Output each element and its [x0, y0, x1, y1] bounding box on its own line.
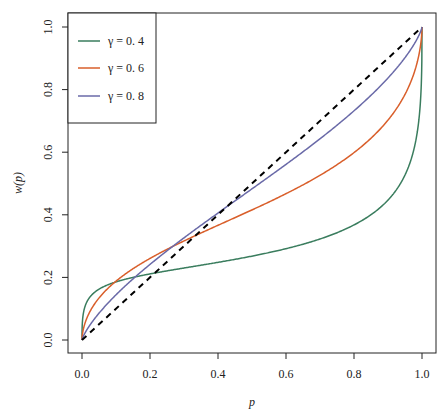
x-tick-label: 0.6: [279, 367, 294, 381]
y-tick-label: 0.2: [41, 270, 55, 285]
x-tick-label: 0.0: [75, 367, 90, 381]
y-tick-label: 0.8: [41, 82, 55, 97]
legend-label-gamma-06: γ = 0. 6: [107, 61, 144, 75]
y-axis-title: w(p): [11, 172, 25, 194]
y-tick-label: 1.0: [41, 20, 55, 35]
legend-label-gamma-08: γ = 0. 8: [107, 89, 144, 103]
x-tick-label: 1.0: [415, 367, 430, 381]
y-axis: 0.00.20.40.60.81.0: [41, 20, 68, 348]
x-axis-title: p: [248, 395, 255, 409]
legend-label-gamma-04: γ = 0. 4: [107, 34, 144, 48]
x-tick-label: 0.8: [347, 367, 362, 381]
x-axis: 0.00.20.40.60.81.0: [75, 353, 430, 381]
y-tick-label: 0.0: [41, 333, 55, 348]
chart-root: 0.00.20.40.60.81.0 0.00.20.40.60.81.0 p …: [0, 0, 448, 416]
y-tick-label: 0.4: [41, 207, 55, 222]
x-tick-label: 0.4: [211, 367, 226, 381]
y-tick-label: 0.6: [41, 145, 55, 160]
legend: γ = 0. 4 γ = 0. 6 γ = 0. 8: [68, 13, 156, 123]
x-tick-label: 0.2: [143, 367, 158, 381]
